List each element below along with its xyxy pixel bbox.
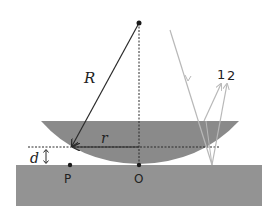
- label-ray-1: 1: [217, 67, 225, 82]
- center-point: [137, 21, 142, 26]
- gap-d-arrow: [44, 150, 49, 164]
- label-ray-2: 2: [227, 68, 235, 83]
- ray-reflected-top: [204, 84, 221, 121]
- newtons-rings-diagram: R r d P O 1 2: [0, 0, 278, 219]
- label-d: d: [30, 150, 39, 166]
- label-P: P: [64, 172, 71, 186]
- label-R: R: [83, 69, 95, 87]
- point-p: [68, 163, 72, 167]
- label-O: O: [134, 172, 143, 186]
- point-o: [137, 163, 141, 167]
